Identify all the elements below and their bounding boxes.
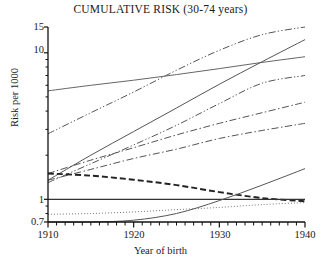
series-line-series-3 (48, 40, 305, 181)
series-line-series-2 (48, 57, 305, 91)
series-line-series-5 (48, 102, 305, 173)
series-layer (48, 27, 305, 222)
series-line-series-4 (48, 75, 305, 182)
axis-layer (44, 27, 305, 228)
series-line-series-9 (48, 203, 305, 215)
plot-area (0, 0, 321, 263)
series-line-series-7 (48, 174, 305, 202)
series-line-series-10 (48, 169, 305, 223)
chart-figure: CUMULATIVE RISK (30-74 years) Risk per 1… (0, 0, 321, 263)
series-line-series-1 (48, 27, 305, 134)
series-line-series-6 (48, 123, 305, 180)
